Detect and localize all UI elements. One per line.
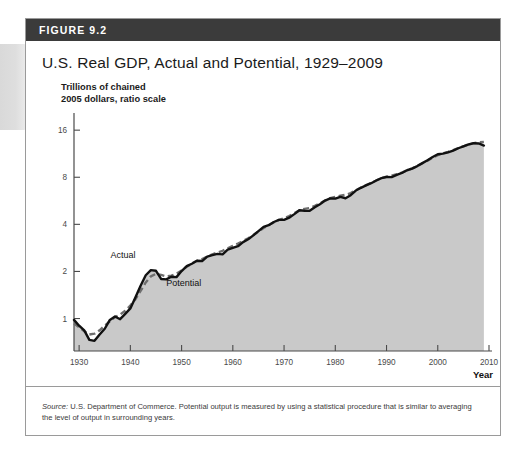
series-annotation-potential: Potential bbox=[166, 278, 201, 288]
x-axis-tick-label: 2000 bbox=[429, 358, 448, 367]
source-divider bbox=[26, 386, 500, 387]
gdp-line-chart: 1248161930194019501960197019801990200020… bbox=[26, 105, 502, 405]
y-axis-unit-line2: 2005 dollars, ratio scale bbox=[61, 94, 500, 106]
page-edge-tab bbox=[0, 44, 26, 130]
x-axis-tick-label: 1940 bbox=[121, 358, 140, 367]
x-axis-tick-label: 1950 bbox=[172, 358, 191, 367]
figure-container: FIGURE 9.2 U.S. Real GDP, Actual and Pot… bbox=[25, 18, 501, 436]
area-fill-group bbox=[74, 143, 484, 351]
x-axis-tick-label: 2010 bbox=[480, 358, 499, 367]
y-axis-tick-label: 2 bbox=[62, 267, 67, 276]
x-axis-title: Year bbox=[473, 369, 493, 380]
y-axis-tick-label: 4 bbox=[62, 220, 67, 229]
y-axis-unit-line1: Trillions of chained bbox=[61, 82, 500, 94]
source-text: U.S. Department of Commerce. Potential o… bbox=[42, 402, 472, 422]
y-axis-tick-label: 8 bbox=[62, 173, 67, 182]
chart-plot-area: 1248161930194019501960197019801990200020… bbox=[26, 105, 502, 405]
series-annotation-actual: Actual bbox=[110, 250, 135, 260]
actual-area-fill bbox=[74, 143, 484, 351]
source-note: Source: U.S. Department of Commerce. Pot… bbox=[42, 401, 484, 423]
figure-title: U.S. Real GDP, Actual and Potential, 192… bbox=[26, 41, 500, 72]
y-axis-unit-caption: Trillions of chained 2005 dollars, ratio… bbox=[26, 72, 500, 105]
source-prefix: Source: bbox=[42, 402, 68, 411]
figure-number-label: FIGURE 9.2 bbox=[39, 24, 107, 36]
figure-header-bar: FIGURE 9.2 bbox=[26, 19, 500, 41]
x-axis-tick-label: 1930 bbox=[70, 358, 89, 367]
x-axis-tick-label: 1960 bbox=[224, 358, 243, 367]
x-axis-tick-label: 1990 bbox=[377, 358, 396, 367]
x-axis-tick-label: 1970 bbox=[275, 358, 294, 367]
y-axis-tick-label: 1 bbox=[62, 315, 67, 324]
y-axis-tick-label: 16 bbox=[58, 126, 68, 135]
x-axis-tick-label: 1980 bbox=[326, 358, 345, 367]
